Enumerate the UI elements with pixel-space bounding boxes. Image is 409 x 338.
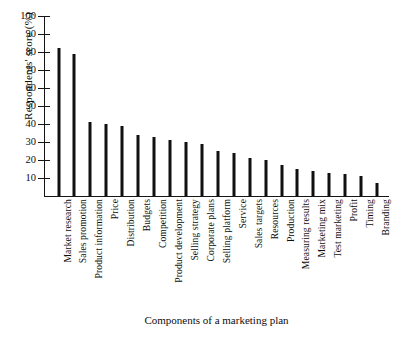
bar bbox=[200, 144, 203, 196]
bar-slot bbox=[353, 16, 369, 196]
x-axis-category-label: Selling platform bbox=[221, 199, 232, 263]
bar bbox=[89, 122, 92, 196]
x-axis-category-label: Test marketing bbox=[332, 199, 343, 258]
plot-area: 102030405060708090100 bbox=[44, 16, 389, 197]
bar-series bbox=[45, 16, 389, 196]
bar bbox=[312, 171, 315, 196]
x-axis-category-label: Product development bbox=[173, 199, 184, 283]
y-axis-tick-label: 90 bbox=[26, 28, 37, 39]
bar bbox=[376, 183, 379, 196]
x-axis-category-label: Selling strategy bbox=[189, 199, 200, 261]
x-axis-title: Components of a marketing plan bbox=[44, 314, 389, 326]
x-axis-category-label: Production bbox=[285, 199, 296, 242]
y-axis-tick-label: 60 bbox=[26, 82, 37, 93]
bar bbox=[169, 140, 172, 196]
bar-slot bbox=[51, 16, 67, 196]
y-axis-tick-label: 40 bbox=[26, 118, 37, 129]
y-axis-tick bbox=[38, 160, 45, 161]
y-axis-tick bbox=[38, 34, 45, 35]
x-axis-category-label: Price bbox=[109, 199, 120, 219]
bar-chart: Respondents' score (%) 10203040506070809… bbox=[0, 0, 409, 338]
bar-slot bbox=[289, 16, 305, 196]
bar-slot bbox=[66, 16, 82, 196]
y-axis-tick bbox=[38, 124, 45, 125]
x-axis-category-label: Competition bbox=[157, 199, 168, 248]
y-axis-tick bbox=[38, 16, 45, 17]
bar-slot bbox=[146, 16, 162, 196]
y-axis-tick bbox=[38, 106, 45, 107]
bar bbox=[121, 126, 124, 196]
bar bbox=[73, 54, 76, 196]
y-axis-tick bbox=[38, 52, 45, 53]
bar bbox=[57, 48, 60, 196]
x-axis-category-label: Sales promotion bbox=[77, 199, 88, 263]
y-axis-tick-label: 100 bbox=[20, 10, 36, 21]
x-axis-category-label: Product information bbox=[93, 199, 104, 278]
y-axis-tick bbox=[38, 88, 45, 89]
bar-slot bbox=[258, 16, 274, 196]
bar-slot bbox=[369, 16, 385, 196]
bar bbox=[153, 137, 156, 196]
y-axis-tick-label: 80 bbox=[26, 46, 37, 57]
y-axis-tick bbox=[38, 178, 45, 179]
y-axis-tick bbox=[38, 142, 45, 143]
bar-slot bbox=[194, 16, 210, 196]
bar bbox=[280, 165, 283, 196]
bar bbox=[248, 158, 251, 196]
y-axis-tick-label: 30 bbox=[26, 136, 37, 147]
bar-slot bbox=[82, 16, 98, 196]
bar-slot bbox=[337, 16, 353, 196]
bar-slot bbox=[178, 16, 194, 196]
x-axis-category-label: Profit bbox=[348, 199, 359, 221]
x-axis-category-label: Marketing mix bbox=[316, 199, 327, 258]
bar-slot bbox=[226, 16, 242, 196]
y-axis-tick-label: 20 bbox=[26, 154, 37, 165]
bar-slot bbox=[162, 16, 178, 196]
x-axis-category-label: Resources bbox=[269, 199, 280, 239]
bar bbox=[344, 174, 347, 196]
x-axis-category-label: Distribution bbox=[125, 199, 136, 247]
x-axis-category-label: Service bbox=[237, 199, 248, 228]
bar-slot bbox=[130, 16, 146, 196]
y-axis-tick-label: 50 bbox=[26, 100, 37, 111]
bar bbox=[232, 153, 235, 196]
x-axis-category-label: Market research bbox=[62, 199, 73, 263]
x-axis-category-label: Sales targets bbox=[253, 199, 264, 248]
bar-slot bbox=[305, 16, 321, 196]
bar bbox=[360, 176, 363, 196]
x-axis-category-label: Timing bbox=[364, 199, 375, 228]
bar-slot bbox=[274, 16, 290, 196]
bar-slot bbox=[210, 16, 226, 196]
bar bbox=[264, 160, 267, 196]
bar bbox=[216, 151, 219, 196]
bar bbox=[328, 173, 331, 196]
bar bbox=[184, 142, 187, 196]
bar-slot bbox=[242, 16, 258, 196]
x-axis-category-labels: Market researchSales promotionProduct in… bbox=[44, 199, 389, 307]
bar-slot bbox=[114, 16, 130, 196]
bar-slot bbox=[98, 16, 114, 196]
y-axis-tick bbox=[38, 70, 45, 71]
x-axis-category-label: Corporate plans bbox=[205, 199, 216, 262]
bar bbox=[137, 135, 140, 196]
x-axis-category-label: Branding bbox=[380, 199, 391, 236]
bar-slot bbox=[321, 16, 337, 196]
bar bbox=[296, 169, 299, 196]
y-axis-tick-label: 10 bbox=[26, 172, 37, 183]
x-axis-category-label: Budgets bbox=[141, 199, 152, 231]
y-axis-tick-label: 70 bbox=[26, 64, 37, 75]
x-axis-category-label: Measuring results bbox=[300, 199, 311, 269]
bar bbox=[105, 124, 108, 196]
